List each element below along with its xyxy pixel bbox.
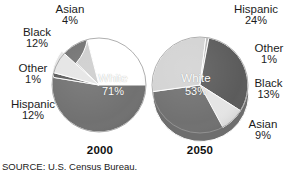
- year-label-2050: 2050: [176, 144, 224, 156]
- label-asian-2000: Asian 4%: [36, 3, 104, 27]
- label-black-2000: Black 12%: [4, 26, 70, 50]
- label-hispanic-2000-pct: 12%: [0, 110, 69, 122]
- charts-container: Asian 4% Black 12% Other 1% Hispanic 12%…: [0, 0, 299, 174]
- label-black-2000-pct: 12%: [4, 38, 70, 50]
- label-white-2000: White 71%: [84, 72, 142, 97]
- label-white-2000-name: White: [84, 72, 142, 85]
- label-white-2050-name: White: [167, 72, 225, 85]
- pie-chart-figure: Asian 4% Black 12% Other 1% Hispanic 12%…: [0, 0, 299, 174]
- year-label-2000: 2000: [76, 144, 124, 156]
- label-hispanic-2050-pct: 24%: [218, 15, 294, 27]
- label-white-2050-pct: 53%: [167, 85, 225, 97]
- label-white-2000-pct: 71%: [84, 85, 142, 97]
- label-black-2050: Black 13%: [240, 77, 297, 101]
- label-black-2050-pct: 13%: [240, 89, 297, 101]
- label-hispanic-2000: Hispanic 12%: [0, 98, 69, 122]
- label-other-2000: Other 1%: [0, 62, 66, 86]
- label-other-2000-pct: 1%: [0, 74, 66, 86]
- source-note: SOURCE: U.S. Census Bureau.: [2, 161, 137, 172]
- label-white-2050: White 53%: [167, 72, 225, 97]
- label-asian-2050-pct: 9%: [234, 130, 292, 142]
- label-hispanic-2050: Hispanic 24%: [218, 3, 294, 27]
- label-asian-2050: Asian 9%: [234, 118, 292, 142]
- label-other-2050-pct: 1%: [241, 54, 297, 66]
- label-other-2050: Other 1%: [241, 42, 297, 66]
